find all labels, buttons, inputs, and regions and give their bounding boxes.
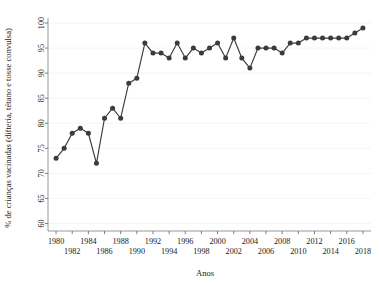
x-tick-label: 2004	[242, 237, 258, 246]
x-tick-label: 1990	[129, 247, 145, 256]
y-tick-label: 70	[38, 169, 47, 177]
y-axis-tick-labels: 6065707580859095100	[38, 17, 47, 228]
x-tick-label: 1994	[161, 247, 177, 256]
chart-figure: 6065707580859095100 19801982198419861988…	[0, 0, 379, 283]
data-point	[207, 46, 212, 51]
data-point	[142, 41, 147, 46]
data-point	[191, 46, 196, 51]
x-tick-label: 1992	[145, 237, 161, 246]
data-point	[86, 131, 91, 136]
x-tick-label: 1998	[193, 247, 209, 256]
data-point	[110, 106, 115, 111]
data-point	[296, 41, 301, 46]
x-tick-label: 2006	[258, 247, 274, 256]
data-point	[78, 126, 83, 131]
data-point	[199, 51, 204, 56]
y-axis-title: % de crianças vacinadas (difteria, tétan…	[3, 28, 13, 228]
data-point	[264, 46, 269, 51]
line-chart: 6065707580859095100 19801982198419861988…	[0, 0, 379, 283]
y-tick-label: 90	[38, 69, 47, 77]
data-point	[118, 116, 123, 121]
data-point	[328, 36, 333, 41]
y-tick-label: 75	[38, 144, 47, 152]
data-series-markers	[54, 26, 366, 166]
y-tick-label: 100	[38, 17, 47, 29]
data-point	[320, 36, 325, 41]
y-tick-label: 95	[38, 44, 47, 52]
x-tick-label: 2000	[209, 237, 225, 246]
y-tick-label: 80	[38, 119, 47, 127]
x-axis-tickmarks	[56, 231, 363, 234]
x-tick-label: 1988	[112, 237, 128, 246]
x-tick-label: 2010	[290, 247, 306, 256]
data-point	[159, 51, 164, 56]
data-point	[272, 46, 277, 51]
x-tick-label: 1980	[48, 237, 64, 246]
data-point	[126, 81, 131, 86]
x-tick-label: 2008	[274, 237, 290, 246]
data-point	[255, 46, 260, 51]
data-point	[312, 36, 317, 41]
data-point	[336, 36, 341, 41]
data-point	[70, 131, 75, 136]
data-point	[134, 76, 139, 81]
x-tick-label: 2018	[355, 247, 371, 256]
data-point	[215, 41, 220, 46]
data-point	[62, 146, 67, 151]
data-point	[360, 26, 365, 31]
data-point	[352, 31, 357, 36]
data-point	[54, 156, 59, 161]
x-tick-label: 1996	[177, 237, 193, 246]
data-point	[167, 56, 172, 61]
x-tick-label: 1982	[64, 247, 80, 256]
data-point	[239, 56, 244, 61]
data-point	[280, 51, 285, 56]
data-point	[94, 161, 99, 166]
y-tick-label: 85	[38, 94, 47, 102]
data-point	[223, 56, 228, 61]
data-point	[304, 36, 309, 41]
x-tick-label: 1984	[80, 237, 96, 246]
x-tick-label: 2014	[322, 247, 338, 256]
gridlines	[48, 23, 371, 223]
data-point	[247, 66, 252, 71]
x-axis-title: Anos	[196, 268, 215, 278]
data-point	[344, 36, 349, 41]
x-tick-label: 2012	[306, 237, 322, 246]
data-point	[183, 56, 188, 61]
x-tick-label: 2016	[339, 237, 355, 246]
x-axis-tick-labels: 1980198219841986198819901992199419961998…	[48, 237, 371, 256]
data-point	[288, 41, 293, 46]
data-point	[102, 116, 107, 121]
x-tick-label: 1986	[96, 247, 112, 256]
data-point	[175, 41, 180, 46]
y-tick-label: 65	[38, 194, 47, 202]
y-tick-label: 60	[38, 219, 47, 227]
data-point	[150, 51, 155, 56]
x-tick-label: 2002	[226, 247, 242, 256]
data-point	[231, 36, 236, 41]
